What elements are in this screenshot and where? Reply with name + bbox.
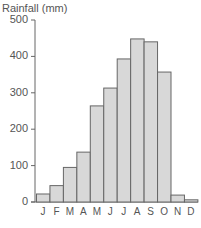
y-tick-label: 0	[2, 195, 28, 207]
x-tick-label: J	[117, 206, 130, 217]
y-tick-label: 400	[2, 49, 28, 61]
y-tick-label: 300	[2, 86, 28, 98]
x-tick-label: D	[184, 206, 197, 217]
bar-11	[184, 200, 197, 202]
bar-6	[117, 59, 130, 202]
bar-9	[158, 72, 171, 202]
bar-7	[131, 39, 144, 202]
x-tick-label: J	[104, 206, 117, 217]
y-tick-label: 100	[2, 159, 28, 171]
y-tick-label: 500	[2, 13, 28, 25]
rainfall-bar-chart: Rainfall (mm) 0100200300400500 JFMAMJJAS…	[0, 0, 201, 228]
bar-2	[63, 167, 76, 202]
x-tick-label: S	[144, 206, 157, 217]
x-tick-label: M	[63, 206, 76, 217]
x-tick-label: J	[37, 206, 50, 217]
bar-1	[50, 186, 63, 202]
x-tick-label: N	[171, 206, 184, 217]
y-tick-label: 200	[2, 122, 28, 134]
x-tick-label: A	[131, 206, 144, 217]
bar-4	[90, 106, 103, 202]
x-tick-label: F	[50, 206, 63, 217]
x-tick-label: A	[77, 206, 90, 217]
x-tick-label: O	[158, 206, 171, 217]
bar-8	[144, 42, 157, 202]
plot-area	[0, 0, 201, 228]
bar-3	[77, 152, 90, 202]
x-tick-label: M	[90, 206, 103, 217]
bar-0	[37, 194, 50, 202]
bar-10	[171, 195, 184, 202]
bar-5	[104, 88, 117, 202]
